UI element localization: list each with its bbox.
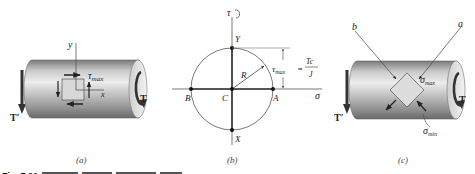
caption-clipped-text — [160, 172, 182, 174]
figure-caption-text: Fig. 7.21 — [2, 171, 38, 174]
torque-T-label: T — [459, 94, 466, 105]
point-X-label: X — [234, 134, 241, 144]
cylinder-end-cap — [129, 60, 147, 118]
sigma-axis-label: σ — [315, 90, 321, 101]
panel-c: b a σmax σmin T T′ (c) — [334, 18, 466, 165]
line-b-label: b — [352, 21, 357, 32]
cylinder-body — [24, 60, 146, 118]
radius-R-label: R — [240, 70, 247, 80]
x-axis-label: x — [100, 90, 105, 99]
point-X — [230, 128, 234, 132]
caption-b: (b) — [227, 155, 238, 165]
caption-clipped-text — [82, 172, 112, 174]
torque-T-prime-label: T′ — [334, 112, 344, 123]
caption-c: (c) — [398, 155, 408, 165]
point-B-label: B — [185, 93, 191, 103]
cylinder-end-cap — [447, 61, 465, 119]
center-C-label: C — [222, 93, 229, 103]
torque-T-label: T — [140, 93, 147, 104]
equals-sign: = — [297, 64, 303, 74]
radius-arrow — [232, 66, 264, 89]
caption-clipped-text — [116, 172, 156, 174]
point-A-label: A — [272, 93, 279, 103]
panel-b: τ σ Y X A B C R τmax = Tc J (b) — [172, 7, 322, 165]
point-Y-label: Y — [235, 34, 241, 44]
caption-clipped-text — [42, 172, 78, 174]
caption-a: (a) — [76, 155, 87, 165]
torque-left-arrowhead-icon — [343, 104, 351, 114]
point-B — [189, 87, 193, 91]
figure-canvas: y x τmax T T′ (a) τ σ Y X A B — [0, 0, 475, 174]
stress-element-square — [62, 79, 84, 100]
point-A — [271, 87, 275, 91]
y-axis-label: y — [67, 39, 73, 50]
formula-numerator: Tc — [306, 57, 314, 66]
tau-axis-label: τ — [227, 7, 231, 18]
panel-a: y x τmax T T′ (a) — [10, 39, 147, 165]
line-a-label: a — [458, 18, 463, 29]
rotation-icon — [235, 10, 240, 18]
tau-max-label: τmax — [272, 64, 286, 75]
figure-caption: Fig. 7.21 — [2, 171, 182, 174]
point-C — [230, 87, 234, 91]
torque-T-prime-label: T′ — [10, 112, 20, 123]
formula-denominator: J — [309, 70, 313, 79]
